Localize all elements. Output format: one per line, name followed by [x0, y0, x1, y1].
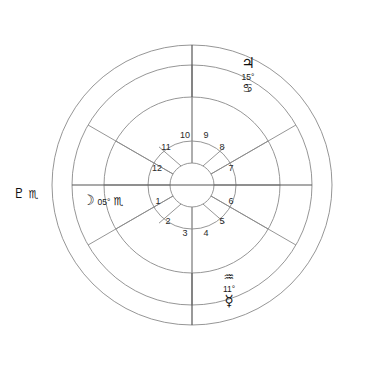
moon-degree: 05° [98, 197, 111, 207]
house-number-6: 6 [228, 196, 233, 206]
house-number-11: 11 [161, 142, 170, 152]
house-number-3: 3 [182, 228, 187, 238]
scorpio-icon-outer: ♏ [29, 188, 39, 201]
mercury-icon: ☿ [209, 294, 249, 310]
cancer-icon: ♋ [228, 82, 268, 95]
placement-pluto[interactable]: ♇ ♏ [13, 185, 38, 201]
scorpio-icon-inner: ♏ [113, 195, 123, 208]
pluto-icon: ♇ [13, 185, 26, 201]
house-number-9: 9 [203, 130, 208, 140]
house-number-7: 7 [228, 163, 233, 173]
placement-moon[interactable]: ☽ 05° ♏ [82, 192, 123, 208]
house-number-10: 10 [180, 130, 190, 140]
jupiter-icon: ♃ [228, 56, 268, 72]
astrology-chart-wheel: 1 2 3 4 5 6 7 8 9 10 11 12 ♃ 15° ♋ ♒ 11°… [0, 0, 383, 369]
house-number-5: 5 [219, 216, 224, 226]
moon-icon: ☽ [82, 192, 95, 208]
house-number-4: 4 [203, 228, 208, 238]
wheel-graphic: 1 2 3 4 5 6 7 8 9 10 11 12 [0, 0, 383, 369]
placement-jupiter[interactable]: ♃ 15° ♋ [228, 56, 268, 95]
house-number-1: 1 [155, 196, 160, 206]
house-number-12: 12 [152, 163, 162, 173]
aquarius-icon: ♒ [209, 271, 249, 284]
placement-mercury[interactable]: ♒ 11° ☿ [209, 271, 249, 310]
house-number-8: 8 [219, 142, 224, 152]
house-number-2: 2 [165, 216, 170, 226]
